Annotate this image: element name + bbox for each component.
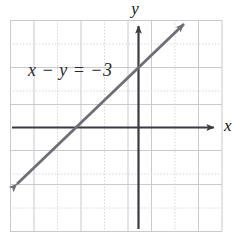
y-axis-label: y — [126, 0, 144, 17]
coordinate-plane-figure: y x x − y = −3 — [0, 0, 233, 235]
x-axis-label: x — [224, 117, 233, 134]
grid-horizontal-lines — [10, 21, 222, 232]
equation-annotation: x − y = −3 — [28, 60, 112, 82]
grid-vertical-lines — [11, 20, 223, 231]
graph-canvas — [0, 0, 233, 235]
